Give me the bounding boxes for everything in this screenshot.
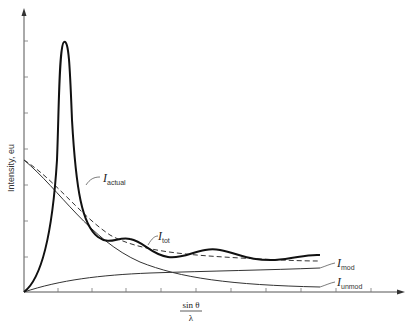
intensity-chart: Iactual Itot Imod Iunmod Intensity, eu s… (0, 0, 411, 334)
series-i-tot (24, 160, 320, 261)
x-ticks (58, 288, 371, 292)
label-i-tot: Itot (157, 229, 170, 244)
x-axis-arrow-icon (397, 290, 405, 295)
x-axis-label-denominator: λ (189, 313, 194, 323)
x-axis-label-numerator: sin θ (182, 300, 199, 310)
axes (24, 14, 400, 292)
series-i-mod (24, 268, 320, 292)
y-axis-label: Intensity, eu (6, 144, 16, 192)
series-i-unmod (24, 160, 320, 287)
series-i-actual (24, 42, 320, 292)
label-i-actual: Iactual (102, 171, 126, 186)
label-i-unmod: Iunmod (336, 275, 363, 290)
y-axis-arrow-icon (22, 8, 27, 16)
label-leaders (86, 177, 335, 287)
label-i-mod: Imod (336, 256, 355, 271)
y-ticks (24, 41, 28, 257)
